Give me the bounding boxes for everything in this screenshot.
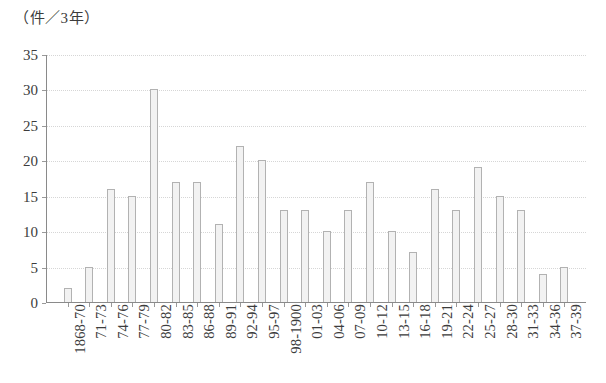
bar	[236, 146, 244, 302]
bar	[301, 210, 309, 302]
bar	[496, 196, 504, 302]
y-tick-mark	[42, 197, 46, 198]
bar	[366, 182, 374, 302]
bar	[474, 167, 482, 302]
x-axis-tick-label: 04-06	[332, 304, 346, 339]
gridline	[47, 161, 586, 163]
bar	[107, 189, 115, 302]
y-tick-mark	[42, 268, 46, 269]
bar	[431, 189, 439, 302]
bar	[150, 89, 158, 302]
x-axis-tick-label: 89-91	[224, 304, 238, 339]
x-axis-tick-label: 28-30	[505, 304, 519, 339]
y-axis-tick-label: 35	[4, 48, 38, 63]
x-axis-tick-label: 01-03	[310, 304, 324, 339]
x-axis-tick-label: 22-24	[461, 304, 475, 339]
bar	[409, 252, 417, 302]
chart-unit-title: （件／3年）	[14, 8, 100, 28]
x-axis-tick-label: 31-33	[526, 304, 540, 339]
y-tick-mark	[42, 161, 46, 162]
x-axis-tick-label: 07-09	[353, 304, 367, 339]
x-axis-tick-label: 37-39	[569, 304, 583, 339]
x-axis-tick-label: 95-97	[267, 304, 281, 339]
bar	[517, 210, 525, 302]
bar	[215, 224, 223, 302]
x-axis-tick-label: 19-21	[440, 304, 454, 339]
y-axis-tick-label: 15	[4, 190, 38, 205]
bar	[452, 210, 460, 302]
gridline	[47, 126, 586, 128]
x-axis-tick-label: 98-1900	[289, 304, 303, 354]
bar-chart: （件／3年） 05101520253035 1868-7071-7374-767…	[0, 0, 606, 383]
gridline	[47, 55, 586, 57]
y-axis-tick-label: 0	[4, 296, 38, 311]
y-axis-tick-label: 20	[4, 154, 38, 169]
gridline	[47, 90, 586, 92]
bar	[344, 210, 352, 302]
x-axis-tick-label: 74-76	[116, 304, 130, 339]
bar	[388, 231, 396, 302]
y-tick-mark	[42, 232, 46, 233]
x-axis-tick-label: 10-12	[375, 304, 389, 339]
bar	[172, 182, 180, 302]
x-axis-tick-label: 92-94	[245, 304, 259, 339]
y-tick-mark	[42, 126, 46, 127]
bar	[128, 196, 136, 302]
x-axis-tick-label: 34-36	[548, 304, 562, 339]
bar	[64, 288, 72, 302]
x-axis-tick-label: 25-27	[483, 304, 497, 339]
y-tick-mark	[42, 90, 46, 91]
y-axis-tick-label: 10	[4, 225, 38, 240]
y-axis-tick-label: 25	[4, 119, 38, 134]
x-axis-tick-label: 13-15	[397, 304, 411, 339]
x-axis-tick-label: 1868-70	[73, 304, 87, 354]
bar	[560, 267, 568, 302]
x-axis-tick-label: 71-73	[94, 304, 108, 339]
x-axis-tick-label: 83-85	[181, 304, 195, 339]
x-axis-tick-label: 80-82	[159, 304, 173, 339]
y-axis-tick-label: 5	[4, 261, 38, 276]
y-tick-mark	[42, 55, 46, 56]
x-axis-tick-label: 16-18	[418, 304, 432, 339]
bar	[85, 267, 93, 302]
x-axis-line	[46, 302, 586, 303]
bar	[323, 231, 331, 302]
y-axis-tick-label: 30	[4, 83, 38, 98]
plot-area	[46, 55, 586, 303]
bar	[280, 210, 288, 302]
x-axis-tick-label: 77-79	[137, 304, 151, 339]
bar	[193, 182, 201, 302]
x-axis-tick-label: 86-88	[202, 304, 216, 339]
x-axis-labels: 1868-7071-7374-7677-7980-8283-8586-8889-…	[46, 304, 586, 383]
bar	[258, 160, 266, 302]
bar	[539, 274, 547, 302]
